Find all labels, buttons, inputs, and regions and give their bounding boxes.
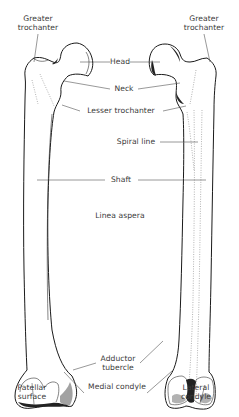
label-shaft: Shaft bbox=[111, 175, 131, 184]
femur-anterior-view bbox=[15, 43, 93, 408]
leader-neck-right bbox=[138, 83, 180, 89]
label-head: Head bbox=[110, 57, 130, 66]
label-lesser-trochanter: Lesser trochanter bbox=[87, 106, 155, 115]
label-line: Patellar bbox=[18, 383, 47, 392]
label-line: trochanter bbox=[18, 23, 58, 32]
label-spiral-line: Spiral line bbox=[117, 137, 155, 146]
leader-neck-left bbox=[64, 81, 110, 89]
leader-adductor-tubercle-left bbox=[73, 363, 96, 370]
leader-adductor-tubercle-right bbox=[140, 341, 163, 363]
label-greater-trochanter-left: Greater trochanter bbox=[18, 14, 58, 32]
label-line: Lateral bbox=[181, 383, 211, 392]
label-line: tubercle bbox=[101, 363, 136, 372]
femur-anterior-outline bbox=[15, 43, 93, 408]
label-neck: Neck bbox=[114, 84, 133, 93]
label-line: Greater bbox=[184, 14, 224, 23]
femur-posterior-outline bbox=[149, 44, 216, 409]
label-line: Greater bbox=[18, 14, 58, 23]
label-greater-trochanter-right: Greater trochanter bbox=[184, 14, 224, 32]
label-line: surface bbox=[18, 392, 47, 401]
label-lateral-condyle: Lateral condyle bbox=[181, 383, 211, 401]
label-line: Adductor bbox=[101, 354, 136, 363]
label-adductor-tubercle: Adductor tubercle bbox=[101, 354, 136, 372]
label-line: condyle bbox=[181, 392, 211, 401]
leader-lesser-trochanter-left bbox=[62, 105, 80, 111]
label-patellar-surface: Patellar surface bbox=[18, 383, 47, 401]
label-linea-aspera: Linea aspera bbox=[95, 211, 144, 220]
label-medial-condyle: Medial condyle bbox=[88, 382, 146, 391]
femur-posterior-view bbox=[149, 44, 216, 409]
label-line: trochanter bbox=[184, 23, 224, 32]
